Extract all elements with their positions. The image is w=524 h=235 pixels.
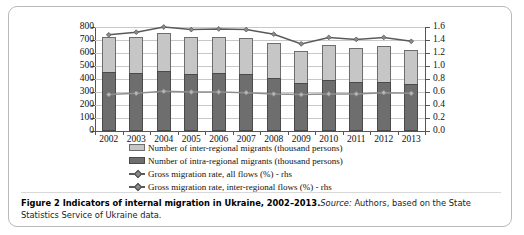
line-marker-diamond-icon[interactable] bbox=[354, 37, 359, 42]
chart-area: 00.01000.22000.43000.64000.85001.06001.2… bbox=[9, 7, 513, 137]
legend-label-inter-regional: Number of inter-regional migrants (thous… bbox=[148, 143, 343, 153]
line-marker-diamond-icon[interactable] bbox=[409, 39, 414, 44]
line-marker-diamond-icon[interactable] bbox=[271, 32, 276, 37]
line-marker-diamond-icon[interactable] bbox=[189, 27, 194, 32]
legend-item-all-flows: Gross migration rate, all flows (%) - rh… bbox=[9, 167, 513, 180]
legend-line-all-flows-icon bbox=[129, 170, 145, 177]
legend-label-all-flows: Gross migration rate, all flows (%) - rh… bbox=[148, 169, 292, 179]
line-inter-regional-rate bbox=[109, 91, 412, 94]
legend-swatch-inter-regional-icon bbox=[129, 144, 145, 151]
line-marker-diamond-icon[interactable] bbox=[161, 25, 166, 30]
line-marker-diamond-icon[interactable] bbox=[381, 35, 386, 40]
legend-label-intra-regional: Number of intra-regional migrants (thous… bbox=[148, 156, 343, 166]
caption-source-label: Source: bbox=[320, 198, 351, 208]
figure-caption: Figure 2 Indicators of internal migratio… bbox=[21, 197, 501, 221]
line-marker-diamond-icon[interactable] bbox=[189, 90, 194, 95]
line-marker-diamond-icon[interactable] bbox=[216, 27, 221, 32]
line-all-flows bbox=[109, 27, 412, 44]
line-marker-diamond-icon[interactable] bbox=[161, 89, 166, 94]
line-marker-diamond-icon[interactable] bbox=[326, 35, 331, 40]
legend-line-inter-regional-rate-icon bbox=[129, 183, 145, 190]
legend-label-inter-regional-rate: Gross migration rate, inter-regional flo… bbox=[148, 182, 332, 192]
line-marker-diamond-icon[interactable] bbox=[134, 30, 139, 35]
legend-item-intra-regional: Number of intra-regional migrants (thous… bbox=[9, 154, 513, 167]
figure-frame: 00.01000.22000.43000.64000.85001.06001.2… bbox=[8, 6, 512, 227]
line-marker-diamond-icon[interactable] bbox=[216, 90, 221, 95]
line-marker-diamond-icon[interactable] bbox=[354, 92, 359, 97]
legend-item-inter-regional: Number of inter-regional migrants (thous… bbox=[9, 141, 513, 154]
line-marker-diamond-icon[interactable] bbox=[326, 92, 331, 97]
line-marker-diamond-icon[interactable] bbox=[134, 91, 139, 96]
lines-layer bbox=[9, 7, 513, 137]
line-marker-diamond-icon[interactable] bbox=[106, 92, 111, 97]
line-marker-diamond-icon[interactable] bbox=[299, 42, 304, 47]
line-marker-diamond-icon[interactable] bbox=[106, 32, 111, 37]
line-marker-diamond-icon[interactable] bbox=[244, 90, 249, 95]
line-marker-diamond-icon[interactable] bbox=[409, 91, 414, 96]
caption-title: Figure 2 Indicators of internal migratio… bbox=[21, 198, 320, 208]
line-marker-diamond-icon[interactable] bbox=[381, 90, 386, 95]
line-marker-diamond-icon[interactable] bbox=[271, 92, 276, 97]
chart-legend: Number of inter-regional migrants (thous… bbox=[9, 141, 513, 193]
legend-swatch-intra-regional-icon bbox=[129, 157, 145, 164]
line-marker-diamond-icon[interactable] bbox=[299, 92, 304, 97]
line-marker-diamond-icon[interactable] bbox=[244, 27, 249, 32]
caption-divider bbox=[21, 192, 501, 193]
